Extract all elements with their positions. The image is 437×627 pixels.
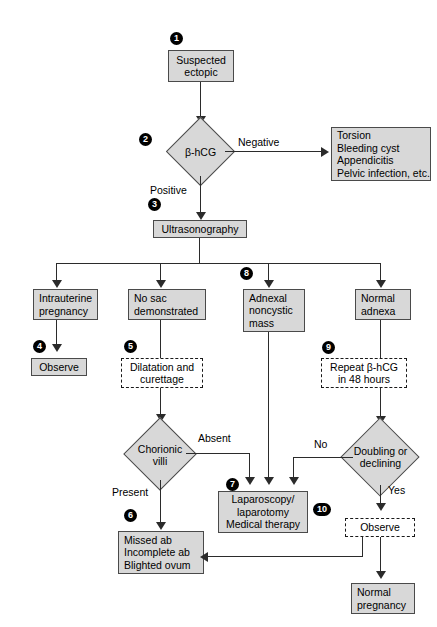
edge-villi-absent-h (186, 453, 250, 454)
edge-us-stem (199, 238, 200, 264)
arrowhead-missed-ab (200, 552, 208, 562)
node-suspected-ectopic: Suspected ectopic (168, 50, 234, 82)
edge-label-no: No (314, 438, 327, 450)
arrowhead-nosac (156, 280, 166, 288)
arrowhead-normal-pregnancy (376, 571, 386, 579)
step-badge-9: 9 (322, 341, 335, 354)
edge-observe10-to-missed-v (362, 537, 363, 557)
node-adnexal-noncystic-mass: Adnexal noncystic mass (243, 289, 305, 332)
node-normal-pregnancy: Normal pregnancy (351, 583, 415, 614)
arrowhead-adnexal (264, 280, 274, 288)
edge-doubling-no-h (293, 457, 353, 458)
edge-nosac-to-dc (160, 320, 161, 358)
step-badge-6: 6 (124, 509, 137, 522)
arrowhead-negative (321, 147, 329, 157)
step-badge-1: 1 (170, 32, 183, 45)
arrowhead-iup (52, 280, 62, 288)
node-observe-4: Observe (31, 358, 87, 376)
edge-label-present: Present (112, 486, 148, 498)
node-repeat-bhcg: Repeat β-hCG in 48 hours (321, 358, 407, 388)
edge-suspected-to-bhcg (200, 82, 201, 120)
edge-label-yes: Yes (388, 484, 405, 496)
edge-observe10-to-missed-h (206, 556, 363, 557)
edge-us-bus (56, 263, 381, 264)
arrowhead-observe4 (52, 344, 62, 352)
edge-bhcg-positive (200, 176, 201, 216)
node-negative-causes: Torsion Bleeding cyst Appendicitis Pelvi… (331, 127, 431, 181)
edge-label-absent: Absent (198, 432, 231, 444)
node-intrauterine-pregnancy: Intrauterine pregnancy (33, 289, 98, 320)
node-observe-10: Observe (345, 518, 415, 537)
arrowhead-laparoscopy-right (289, 477, 299, 485)
node-no-sac-demonstrated: No sac demonstrated (128, 289, 206, 320)
step-badge-3: 3 (148, 198, 161, 211)
edge-observe10-to-normal-pregnancy (380, 537, 381, 575)
arrowhead-laparoscopy-center (264, 477, 274, 485)
node-laparoscopy: Laparoscopy/ laparotomy Medical therapy (218, 491, 308, 533)
edge-label-positive: Positive (150, 184, 187, 196)
step-badge-10: 10 (313, 503, 331, 516)
step-badge-2: 2 (139, 133, 152, 146)
edge-adnexal-to-laparoscopy (268, 332, 269, 481)
edge-label-negative: Negative (238, 136, 279, 148)
arrowhead-absent (245, 477, 255, 485)
edge-bhcg-negative (225, 151, 323, 152)
node-dilatation-curettage: Dilatation and curettage (121, 358, 203, 388)
step-badge-5: 5 (124, 340, 137, 353)
edge-normal-adnexa-to-repeat (380, 320, 381, 358)
flowchart-canvas: 1 Suspected ectopic 2 β-hCG Negative Tor… (0, 0, 437, 627)
step-badge-7: 7 (226, 478, 239, 491)
arrowhead-normal-adnexa (376, 280, 386, 288)
step-badge-8: 8 (240, 267, 253, 280)
arrowhead-positive (196, 212, 206, 220)
step-badge-4: 4 (33, 340, 46, 353)
arrowhead-observe10 (376, 503, 386, 511)
node-missed-ab: Missed ab Incomplete ab Blighted ovum (118, 531, 204, 574)
node-ultrasonography: Ultrasonography (153, 220, 247, 238)
arrowhead-present (156, 522, 166, 530)
node-normal-adnexa: Normal adnexa (355, 289, 411, 320)
edge-villi-present (160, 480, 161, 527)
